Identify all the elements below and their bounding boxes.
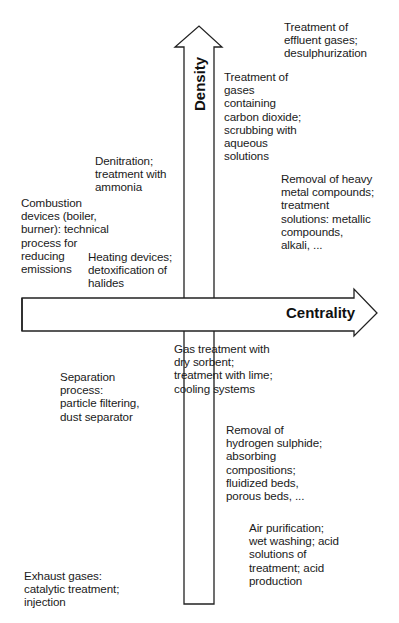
label-denitration: Denitration; treatment with ammonia	[95, 154, 166, 194]
strategic-diagram: Density Centrality Treatment of effluent…	[0, 0, 399, 623]
label-dry-sorbent: Gas treatment with dry sorbent; treatmen…	[174, 342, 273, 395]
centrality-axis-label: Centrality	[286, 304, 355, 321]
label-separation-process: Separation process: particle filtering, …	[60, 370, 139, 423]
label-carbon-dioxide: Treatment of gases containing carbon dio…	[224, 70, 301, 162]
label-air-purification: Air purification; wet washing; acid solu…	[249, 521, 339, 587]
density-axis-label: Density	[191, 57, 208, 111]
label-exhaust-gases: Exhaust gases: catalytic treatment; inje…	[24, 569, 119, 609]
label-hydrogen-sulphide: Removal of hydrogen sulphide; absorbing …	[226, 423, 322, 502]
label-heavy-metal: Removal of heavy metal compounds; treatm…	[281, 172, 374, 251]
label-effluent-gases: Treatment of effluent gases; desulphuriz…	[284, 20, 367, 60]
label-heating-devices: Heating devices; detoxification of halid…	[88, 250, 172, 290]
